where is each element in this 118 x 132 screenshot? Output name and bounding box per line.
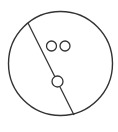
divider-line <box>28 23 74 115</box>
small-circle-left <box>47 41 57 51</box>
small-circle-right <box>60 41 70 51</box>
circle-diagram <box>0 0 118 132</box>
outer-circle <box>9 12 113 116</box>
small-circle-on-line <box>52 76 63 87</box>
